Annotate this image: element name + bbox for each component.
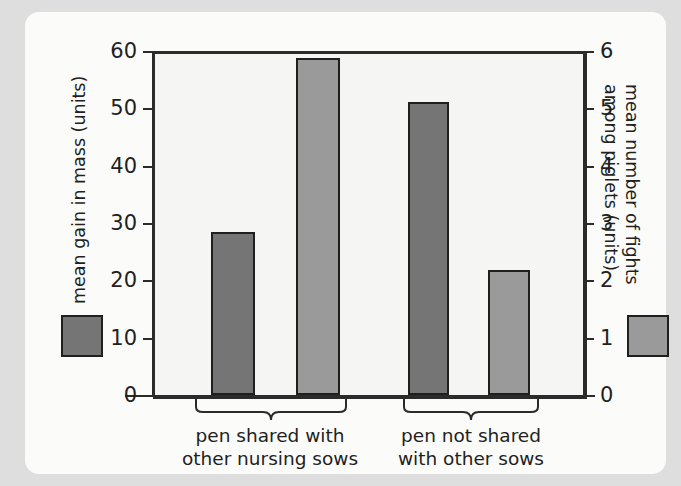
y-axis-right-tick-1 <box>585 338 594 340</box>
legend-swatch-fights <box>627 315 669 357</box>
y-axis-left-ticklabel-40: 40 <box>93 156 137 177</box>
legend-swatch-mass <box>61 315 103 357</box>
y-axis-left-tick-50 <box>143 108 152 110</box>
y-axis-left-tick-60 <box>143 51 152 53</box>
y-axis-left-tick-10 <box>143 338 152 340</box>
y-axis-right-ticklabel-6: 6 <box>600 41 644 62</box>
y-axis-right-tick-5 <box>585 108 594 110</box>
bar-group0-fights <box>296 58 340 395</box>
y-axis-right-tick-0 <box>585 395 594 397</box>
x-axis-group-label-0: pen shared with other nursing sows <box>175 424 365 471</box>
y-axis-right-title: mean number of fights among piglets (uni… <box>601 84 642 285</box>
y-axis-left-tick-0 <box>143 395 152 397</box>
y-axis-right-tick-6 <box>585 51 594 53</box>
bar-group0-mass <box>211 232 255 395</box>
y-axis-left-ticklabel-0: 0 <box>93 385 137 406</box>
y-axis-left-ticklabel-30: 30 <box>93 213 137 234</box>
y-axis-left-tick-20 <box>143 280 152 282</box>
group-brace-0 <box>193 397 349 423</box>
y-axis-left-ticklabel-50: 50 <box>93 98 137 119</box>
y-axis-right-tick-2 <box>585 280 594 282</box>
bar-group1-fights <box>488 270 530 395</box>
bar-group1-mass <box>408 102 449 395</box>
group-label-0-line2: other nursing sows <box>175 447 365 470</box>
x-axis-group-label-1: pen not shared with other sows <box>383 424 559 471</box>
y-axis-left-tick-40 <box>143 166 152 168</box>
y-axis-left-title: mean gain in mass (units) <box>69 76 90 304</box>
y-axis-right-tick-3 <box>585 223 594 225</box>
plot-top-border <box>152 51 585 53</box>
y-axis-right-title-line2: among piglets (units) <box>601 84 622 285</box>
y-axis-left-tick-30 <box>143 223 152 225</box>
group-label-0-line1: pen shared with <box>196 425 345 446</box>
y-axis-right-tick-4 <box>585 166 594 168</box>
group-label-1-line2: with other sows <box>383 447 559 470</box>
y-axis-left-line <box>152 51 154 397</box>
group-brace-1 <box>401 397 541 423</box>
y-axis-right-ticklabel-0: 0 <box>600 385 644 406</box>
y-axis-left-ticklabel-60: 60 <box>93 41 137 62</box>
figure-card: 60 50 40 30 20 10 0 6 5 4 3 2 1 0 pen sh… <box>25 12 666 474</box>
y-axis-right-title-line1: mean number of fights <box>622 84 642 285</box>
y-axis-left-ticklabel-20: 20 <box>93 270 137 291</box>
group-label-1-line1: pen not shared <box>401 425 541 446</box>
